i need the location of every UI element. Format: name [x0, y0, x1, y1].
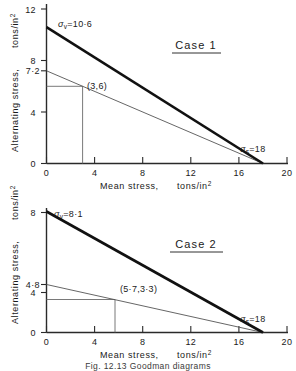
x-axis-title-main-case-2: Mean stress, — [100, 350, 159, 360]
svg-text:σs=18: σs=18 — [240, 144, 265, 155]
figure-canvas: 0 4 8 12 7·2 0 4 8 12 16 20 σv=10·6 σs=1… — [0, 0, 296, 371]
x-ticklabel-16-case-1: 16 — [233, 168, 244, 178]
y-ticklabel-8-case-1: 8 — [31, 56, 36, 66]
goodman-diagram-figure: 0 4 8 12 7·2 0 4 8 12 16 20 σv=10·6 σs=1… — [0, 0, 296, 371]
case-title-2: Case 2 — [175, 238, 216, 250]
sigma-s-label-case-2: σs=18 — [240, 314, 265, 325]
x-ticklabel-20-case-2: 20 — [282, 337, 293, 347]
x-axis-title-case-1: Mean stress, tons/in2 — [100, 180, 212, 192]
goodman-line-case-2 — [47, 212, 264, 333]
sigma-s-value-case-1: =18 — [249, 144, 265, 154]
y-ticklabel-4-case-1: 4 — [31, 108, 36, 118]
y-ticklabel-7p2-case-1: 7·2 — [26, 66, 40, 76]
point-label-case-1: (3,6) — [87, 81, 107, 91]
guide-lines-case-1 — [47, 86, 83, 163]
x-ticklabel-8-case-2: 8 — [140, 337, 145, 347]
point-label-case-2: (5·7,3·3) — [120, 284, 157, 294]
svg-text:σs=18: σs=18 — [240, 314, 265, 325]
chart-case-1: 0 4 8 12 7·2 0 4 8 12 16 20 σv=10·6 σs=1… — [9, 4, 293, 191]
x-ticklabel-16-case-2: 16 — [233, 337, 244, 347]
y-axis-title-main-case-2: Alternating stress, — [10, 241, 20, 324]
svg-text:σv=10·6: σv=10·6 — [58, 19, 92, 30]
y-axis-title-case-1: Alternating stress, tons/in2 — [9, 13, 21, 152]
x-ticklabel-12-case-2: 12 — [185, 337, 196, 347]
y-ticklabel-0-case-1: 0 — [31, 159, 36, 169]
y-ticklabel-8-case-2: 8 — [31, 208, 36, 218]
x-ticklabel-4-case-1: 4 — [92, 168, 97, 178]
working-line-case-1 — [47, 71, 264, 164]
case-title-1: Case 1 — [175, 39, 216, 51]
x-ticklabel-0-case-1: 0 — [44, 168, 49, 178]
goodman-line-case-1 — [47, 27, 264, 163]
y-ticklabel-12-case-1: 12 — [25, 5, 36, 15]
y-axis-title-case-2: Alternating stress, tons/in2 — [9, 185, 21, 324]
sigma-v-label-case-1: σv=10·6 — [58, 19, 92, 30]
x-axis-title-units-case-2: tons/in2 — [177, 349, 212, 361]
x-axis-title-main-case-1: Mean stress, — [100, 181, 159, 191]
sigma-s-label-case-1: σs=18 — [240, 144, 265, 155]
sigma-s-value-case-2: =18 — [249, 314, 265, 324]
x-ticklabel-12-case-1: 12 — [185, 168, 196, 178]
sigma-v-value-case-2: =8·1 — [63, 209, 82, 219]
x-ticklabel-4-case-2: 4 — [92, 337, 97, 347]
y-axis-title-main-case-1: Alternating stress, — [10, 69, 20, 152]
x-axis-title-units-case-1: tons/in2 — [177, 180, 212, 192]
y-ticklabel-0-case-2: 0 — [31, 328, 36, 338]
x-axis-title-case-2: Mean stress, tons/in2 — [100, 349, 212, 361]
y-axis-title-units-case-2: tons/in2 — [9, 185, 21, 220]
x-ticklabel-0-case-2: 0 — [44, 337, 49, 347]
svg-text:σv=8·1: σv=8·1 — [54, 209, 83, 220]
y-axis-title-units-case-1: tons/in2 — [9, 13, 21, 48]
case-title-2-group: Case 2 — [170, 238, 223, 252]
guide-lines-case-2 — [47, 300, 116, 333]
x-ticklabel-20-case-1: 20 — [282, 168, 293, 178]
chart-case-2: 0 4 8 4·8 0 4 8 12 16 20 σv=8·1 σs=18 (5… — [9, 185, 293, 360]
case-title-1-group: Case 1 — [172, 39, 221, 53]
sigma-v-value-case-1: =10·6 — [67, 19, 92, 29]
x-ticklabel-8-case-1: 8 — [140, 168, 145, 178]
y-ticklabel-4p8-case-2: 4·8 — [26, 280, 40, 290]
figure-caption: Fig. 12.13 Goodman diagrams — [85, 361, 211, 371]
sigma-v-label-case-2: σv=8·1 — [54, 209, 83, 220]
